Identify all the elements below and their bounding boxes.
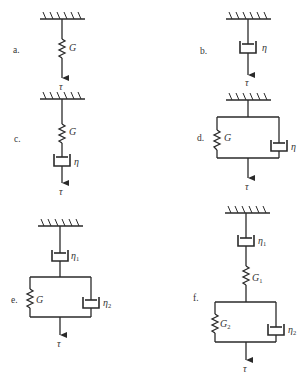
force-label-tau: τ bbox=[59, 186, 63, 197]
panel-label-a: a. bbox=[13, 45, 20, 55]
panel-c: c. G η τ bbox=[14, 92, 85, 197]
panel-label-f: f. bbox=[193, 293, 199, 303]
dashpot-label-eta: η bbox=[74, 156, 79, 167]
dashpot-1-label: η1 bbox=[258, 235, 266, 247]
spring-label-G: G bbox=[224, 132, 231, 143]
panel-a: a. G τ bbox=[13, 12, 85, 92]
panel-label-c: c. bbox=[14, 134, 21, 144]
force-label-tau: τ bbox=[57, 338, 61, 349]
ceiling-support-icon bbox=[40, 92, 85, 99]
force-label-tau: τ bbox=[243, 363, 247, 374]
panel-b: b. η τ bbox=[200, 12, 271, 88]
ceiling-support-icon bbox=[225, 206, 270, 213]
spring-icon bbox=[214, 130, 220, 150]
force-label-tau: τ bbox=[245, 181, 249, 192]
force-label-tau: τ bbox=[59, 81, 63, 92]
spring-label-G: G bbox=[69, 126, 76, 137]
panel-label-d: d. bbox=[197, 133, 204, 143]
panel-d: d. G η τ bbox=[197, 93, 296, 192]
dashpot-1-label: η1 bbox=[71, 250, 79, 262]
panel-label-b: b. bbox=[200, 46, 207, 56]
panel-e: e. G η1 η2 τ bbox=[11, 219, 111, 349]
spring-icon bbox=[59, 124, 65, 143]
panel-label-e: e. bbox=[11, 295, 18, 305]
ceiling-support-icon bbox=[40, 12, 85, 19]
dashpot-label-eta: η bbox=[291, 141, 296, 152]
ceiling-support-icon bbox=[38, 219, 83, 226]
spring-2-label: G2 bbox=[220, 318, 230, 330]
spring-1-label: G1 bbox=[252, 272, 262, 284]
dashpot-2-label: η2 bbox=[288, 324, 296, 336]
viscoelastic-models-diagram: a. G τ b. η τ bbox=[0, 0, 306, 380]
spring-label-G: G bbox=[36, 294, 43, 305]
ceiling-support-icon bbox=[226, 93, 271, 100]
spring-label-G: G bbox=[69, 42, 76, 53]
spring-2-icon bbox=[212, 314, 218, 333]
dashpot-2-label: η2 bbox=[103, 297, 111, 309]
spring-1-icon bbox=[243, 266, 249, 285]
panel-f: f. η1 G1 G2 η2 τ bbox=[193, 206, 296, 374]
spring-icon bbox=[27, 289, 33, 308]
dashpot-label-eta: η bbox=[262, 42, 267, 53]
ceiling-support-icon bbox=[226, 12, 271, 19]
force-label-tau: τ bbox=[245, 77, 249, 88]
spring-icon bbox=[59, 39, 65, 58]
